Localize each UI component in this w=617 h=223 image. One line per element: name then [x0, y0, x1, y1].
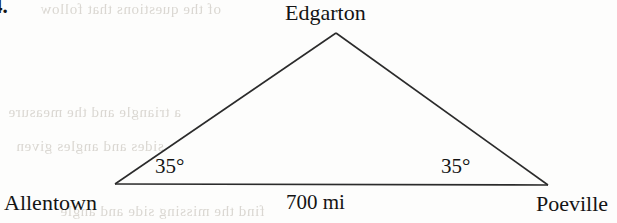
angle-label-right: 35° — [441, 156, 470, 177]
diagram-page: of the questions that follow a triangle … — [0, 0, 617, 223]
vertex-label-allentown: Allentown — [4, 192, 97, 214]
triangle-side-allentown-edgarton — [115, 33, 336, 184]
vertex-label-edgarton: Edgarton — [285, 2, 366, 24]
vertex-label-poeville: Poeville — [536, 193, 608, 215]
angle-label-left: 35° — [155, 156, 184, 177]
side-label-base: 700 mi — [286, 192, 345, 213]
triangle-side-allentown-poeville — [115, 184, 548, 185]
